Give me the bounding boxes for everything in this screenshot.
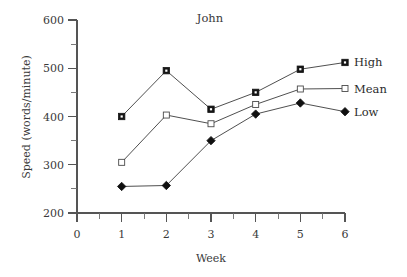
- series-line-low: [122, 103, 345, 186]
- data-point-low-week-5: [296, 99, 304, 107]
- x-tick-label: 6: [342, 228, 349, 241]
- y-axis-ticks: [68, 20, 77, 213]
- legend-label-low: Low: [354, 105, 379, 119]
- x-tick-label: 1: [118, 228, 125, 241]
- y-axis-title: Speed (words/minute): [20, 55, 33, 178]
- x-axis-tick-labels: 0123456: [74, 228, 349, 241]
- chart-figure: 200300400500600 0123456 John Week Speed …: [0, 0, 407, 277]
- axes-group: [77, 20, 345, 213]
- data-point-mean-week-6: [342, 86, 348, 92]
- y-tick-label: 600: [43, 14, 64, 27]
- data-point-low-week-6: [341, 107, 349, 115]
- line-chart-canvas: 200300400500600 0123456 John Week Speed …: [0, 0, 407, 277]
- x-tick-label: 5: [297, 228, 304, 241]
- x-tick-label: 2: [163, 228, 170, 241]
- series-lines-group: [122, 62, 345, 186]
- y-tick-label: 200: [43, 207, 64, 220]
- data-point-high-week-3: [208, 106, 214, 112]
- data-point-mean-week-1: [119, 159, 125, 165]
- series-line-high: [122, 62, 345, 116]
- data-point-high-week-1: [118, 113, 124, 119]
- legend-label-mean: Mean: [354, 82, 387, 96]
- data-point-mean-week-5: [297, 86, 303, 92]
- data-point-mean-week-4: [253, 101, 259, 107]
- series-line-mean: [122, 89, 345, 163]
- data-point-high-week-6: [342, 59, 348, 65]
- legend-label-high: High: [354, 55, 383, 69]
- x-tick-label: 3: [208, 228, 215, 241]
- y-tick-label: 500: [43, 62, 64, 75]
- data-point-mean-week-2: [163, 112, 169, 118]
- x-axis-ticks: [77, 213, 345, 222]
- y-tick-label: 400: [43, 111, 64, 124]
- data-point-low-week-1: [117, 182, 125, 190]
- legend: HighMeanLow: [354, 55, 387, 118]
- x-axis-title: Week: [196, 252, 226, 265]
- data-point-mean-week-3: [208, 121, 214, 127]
- data-point-high-week-2: [163, 67, 169, 73]
- x-tick-label: 4: [252, 228, 259, 241]
- data-point-high-week-4: [252, 89, 258, 95]
- chart-title: John: [196, 11, 224, 25]
- y-tick-label: 300: [43, 159, 64, 172]
- data-point-high-week-5: [297, 66, 303, 72]
- y-axis-tick-labels: 200300400500600: [43, 14, 64, 220]
- series-markers-group: [117, 59, 349, 190]
- x-tick-label: 0: [74, 228, 81, 241]
- data-point-low-week-4: [251, 110, 259, 118]
